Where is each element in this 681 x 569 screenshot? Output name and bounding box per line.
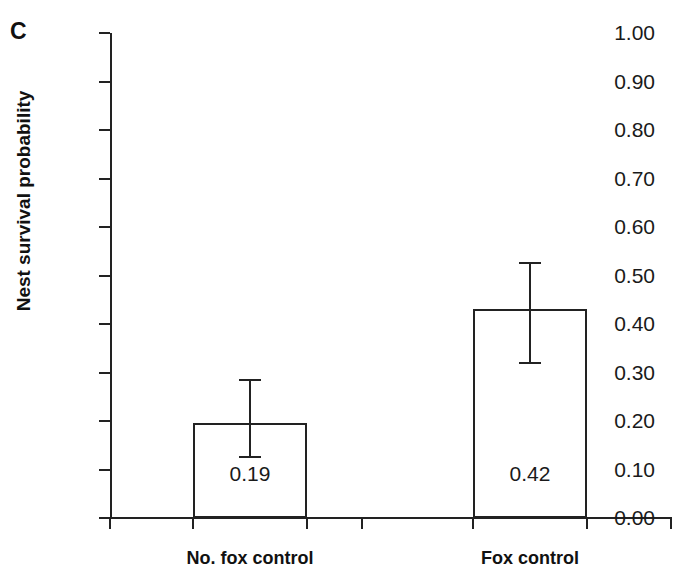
y-axis-tick bbox=[99, 81, 110, 83]
bar-value-label: 0.42 bbox=[510, 462, 551, 486]
y-axis-tick-label: 0.60 bbox=[614, 215, 655, 239]
y-axis-tick bbox=[99, 129, 110, 131]
bar-value-label: 0.19 bbox=[230, 462, 271, 486]
y-axis-tick-label: 0.70 bbox=[614, 167, 655, 191]
y-axis-tick-label: 0.50 bbox=[614, 264, 655, 288]
y-axis-tick-label: 0.30 bbox=[614, 361, 655, 385]
figure-panel-c: C Nest survival probability 1.000.900.80… bbox=[0, 0, 681, 569]
y-axis-tick-label: 0.10 bbox=[614, 458, 655, 482]
y-axis-tick-label: 0.00 bbox=[614, 506, 655, 530]
plot-area: 1.000.900.800.700.600.500.400.300.200.10… bbox=[110, 33, 671, 518]
x-axis-tick bbox=[109, 517, 111, 529]
x-axis-tick bbox=[192, 517, 194, 529]
y-axis-tick bbox=[99, 420, 110, 422]
y-axis-tick-label: 0.80 bbox=[614, 118, 655, 142]
error-bar-cap-upper bbox=[519, 262, 541, 264]
x-axis-tick bbox=[361, 517, 363, 529]
y-axis-tick-label: 1.00 bbox=[614, 21, 655, 45]
error-bar-cap-upper bbox=[239, 379, 261, 381]
y-axis-tick bbox=[99, 178, 110, 180]
y-axis-tick bbox=[99, 469, 110, 471]
error-bar-cap-lower bbox=[239, 456, 261, 458]
error-bar-cap-lower bbox=[519, 362, 541, 364]
x-axis-category-label: Fox control bbox=[481, 548, 579, 569]
panel-label: C bbox=[10, 20, 27, 43]
x-axis-tick bbox=[586, 517, 588, 529]
y-axis-tick-label: 0.90 bbox=[614, 70, 655, 94]
error-bar-stem bbox=[529, 263, 531, 362]
y-axis-tick-label: 0.20 bbox=[614, 409, 655, 433]
x-axis-tick bbox=[306, 517, 308, 529]
error-bar-stem bbox=[249, 380, 251, 458]
x-axis-category-label: No. fox control bbox=[187, 548, 314, 569]
y-axis-line bbox=[110, 33, 112, 519]
y-axis-tick bbox=[99, 372, 110, 374]
y-axis-tick-label: 0.40 bbox=[614, 312, 655, 336]
x-axis-tick bbox=[472, 517, 474, 529]
x-axis-tick bbox=[670, 517, 672, 529]
y-axis-title: Nest survival probability bbox=[13, 71, 35, 331]
y-axis-tick bbox=[99, 323, 110, 325]
y-axis-tick bbox=[99, 275, 110, 277]
y-axis-tick bbox=[99, 226, 110, 228]
y-axis-tick bbox=[99, 32, 110, 34]
